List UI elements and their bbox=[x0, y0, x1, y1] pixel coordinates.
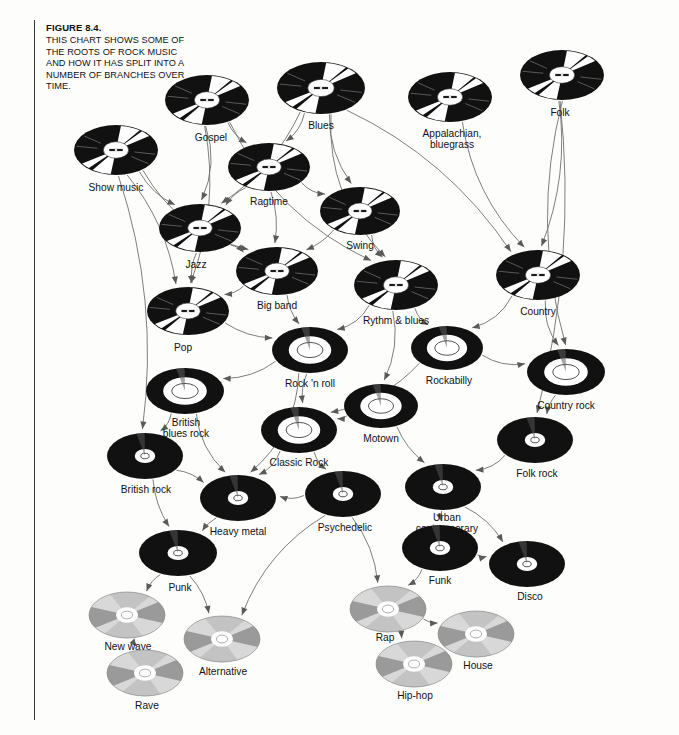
genre-node-psychedelic[interactable] bbox=[303, 469, 383, 519]
figure-canvas: FIGURE 8.4. THIS CHART SHOWS SOME OF THE… bbox=[0, 0, 679, 735]
record-disc bbox=[145, 285, 231, 337]
genre-node-folk-rock[interactable] bbox=[495, 415, 575, 465]
genre-node-alternative[interactable] bbox=[182, 614, 262, 664]
record-disc bbox=[198, 473, 278, 523]
record-disc bbox=[400, 523, 480, 573]
genre-label-big-band: Big band bbox=[257, 300, 297, 311]
genre-node-rockabilly[interactable] bbox=[409, 324, 485, 372]
genre-node-british-rock[interactable] bbox=[105, 431, 185, 481]
record-disc bbox=[518, 48, 606, 102]
record-disc bbox=[234, 245, 320, 297]
genre-label-blues: Blues bbox=[308, 120, 333, 131]
genre-label-psychedelic: Psychedelic bbox=[318, 522, 372, 533]
record-disc bbox=[105, 648, 185, 698]
genre-label-ragtime: Ragtime bbox=[250, 196, 288, 207]
genre-label-rockabilly: Rockabilly bbox=[426, 375, 472, 386]
genre-node-heavy-metal[interactable] bbox=[198, 473, 278, 523]
record-disc bbox=[352, 258, 440, 312]
genre-label-british-rock: British rock bbox=[121, 484, 171, 495]
record-disc bbox=[87, 590, 167, 640]
genre-node-british-blues-rock[interactable] bbox=[144, 366, 226, 416]
genre-label-pop: Pop bbox=[174, 342, 192, 353]
record-disc bbox=[163, 73, 251, 127]
record-disc bbox=[182, 614, 262, 664]
genre-node-funk[interactable] bbox=[400, 523, 480, 573]
genre-node-country[interactable] bbox=[494, 248, 582, 302]
genre-node-hip-hop[interactable] bbox=[374, 639, 454, 689]
genre-node-rythm-blues[interactable] bbox=[352, 258, 440, 312]
genre-node-motown[interactable] bbox=[342, 382, 420, 430]
genre-node-pop[interactable] bbox=[145, 285, 231, 337]
record-disc bbox=[105, 431, 185, 481]
genre-node-appalachian[interactable] bbox=[406, 70, 494, 124]
genre-label-rock-n-roll: Rock 'n roll bbox=[285, 378, 335, 389]
genre-node-ragtime[interactable] bbox=[226, 141, 312, 193]
genre-label-funk: Funk bbox=[429, 575, 452, 586]
record-disc bbox=[487, 539, 567, 589]
genre-label-disco: Disco bbox=[517, 591, 542, 602]
genre-label-house: House bbox=[463, 660, 492, 671]
record-disc bbox=[72, 123, 160, 177]
genre-node-urban-contemporary[interactable] bbox=[403, 462, 483, 512]
record-disc bbox=[409, 324, 485, 372]
genre-label-country-rock: Country rock bbox=[537, 400, 595, 411]
record-disc bbox=[303, 469, 383, 519]
record-disc bbox=[226, 141, 312, 193]
genre-node-rave[interactable] bbox=[105, 648, 185, 698]
record-disc bbox=[494, 248, 582, 302]
genre-node-disco[interactable] bbox=[487, 539, 567, 589]
genre-node-big-band[interactable] bbox=[234, 245, 320, 297]
record-disc bbox=[275, 60, 367, 116]
genre-node-classic-rock[interactable] bbox=[259, 405, 339, 455]
record-disc bbox=[157, 202, 243, 254]
genre-label-jazz: Jazz bbox=[186, 259, 207, 270]
genre-node-punk[interactable] bbox=[137, 528, 219, 578]
genre-label-hip-hop: Hip-hop bbox=[397, 690, 433, 701]
genre-node-folk[interactable] bbox=[518, 48, 606, 102]
genre-node-new-wave[interactable] bbox=[87, 590, 167, 640]
genre-label-classic-rock: Classic Rock bbox=[270, 457, 329, 468]
record-disc bbox=[318, 185, 402, 237]
record-disc bbox=[342, 382, 420, 430]
genre-node-blues[interactable] bbox=[275, 60, 367, 116]
genre-label-folk-rock: Folk rock bbox=[516, 468, 557, 479]
genre-label-appalachian: Appalachian, bluegrass bbox=[423, 128, 482, 151]
record-disc bbox=[403, 462, 483, 512]
record-disc bbox=[348, 584, 428, 634]
record-disc bbox=[525, 347, 607, 397]
record-disc bbox=[495, 415, 575, 465]
record-disc bbox=[406, 70, 494, 124]
genre-label-motown: Motown bbox=[363, 433, 399, 444]
record-disc bbox=[259, 405, 339, 455]
record-disc bbox=[137, 528, 219, 578]
genre-node-country-rock[interactable] bbox=[525, 347, 607, 397]
genre-label-folk: Folk bbox=[550, 107, 569, 118]
genre-label-rave: Rave bbox=[135, 700, 159, 711]
genre-label-show-music: Show music bbox=[89, 182, 144, 193]
genre-node-gospel[interactable] bbox=[163, 73, 251, 127]
genre-node-jazz[interactable] bbox=[157, 202, 243, 254]
record-disc bbox=[374, 639, 454, 689]
genre-node-swing[interactable] bbox=[318, 185, 402, 237]
record-disc bbox=[144, 366, 226, 416]
genre-label-swing: Swing bbox=[346, 240, 374, 251]
genre-node-show-music[interactable] bbox=[72, 123, 160, 177]
genre-node-rap[interactable] bbox=[348, 584, 428, 634]
genre-label-gospel: Gospel bbox=[195, 132, 227, 143]
genre-label-punk: Punk bbox=[168, 582, 191, 593]
genre-label-alternative: Alternative bbox=[199, 666, 247, 677]
genre-label-country: Country bbox=[520, 306, 556, 317]
genre-node-rock-n-roll[interactable] bbox=[270, 325, 350, 375]
record-disc bbox=[270, 325, 350, 375]
